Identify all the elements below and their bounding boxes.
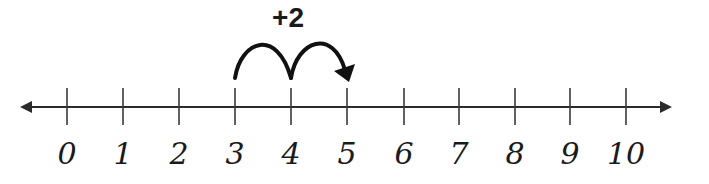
hop-arrows: [235, 44, 355, 82]
tick-label: 6: [384, 136, 424, 172]
tick-label: 8: [495, 136, 535, 172]
tick-label: 4: [271, 136, 311, 172]
tick-label: 2: [159, 136, 199, 172]
tick-label: 10: [606, 136, 646, 172]
tick-label: 5: [327, 136, 367, 172]
tick-label: 3: [215, 136, 255, 172]
right-arrowhead-icon: [660, 101, 672, 113]
hop-arc: [235, 45, 291, 78]
tick-label: 7: [439, 136, 479, 172]
tick-label: 0: [47, 136, 87, 172]
tick-label: 1: [103, 136, 143, 172]
number-line-axis: [20, 101, 672, 113]
operation-label: +2: [272, 2, 304, 34]
tick-label: 9: [550, 136, 590, 172]
number-line-diagram: +2 012345678910: [0, 0, 709, 184]
left-arrowhead-icon: [20, 101, 32, 113]
